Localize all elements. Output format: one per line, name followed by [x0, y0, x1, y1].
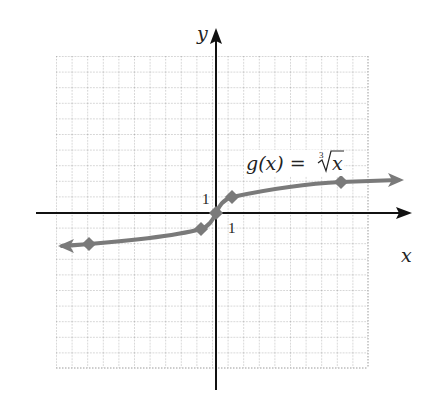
function-label: g(x) = 3 x — [244, 150, 344, 176]
y-tick-label: 1 — [202, 191, 210, 207]
y-axis-label: y — [196, 22, 208, 44]
radicand: x — [332, 152, 343, 174]
root-index: 3 — [319, 150, 324, 160]
cube-root-graph: y x 1 1 g(x) = 3 x — [0, 0, 428, 407]
function-name: g(x) = — [246, 152, 306, 174]
x-axis-label: x — [401, 244, 412, 266]
x-tick-label: 1 — [228, 220, 236, 236]
